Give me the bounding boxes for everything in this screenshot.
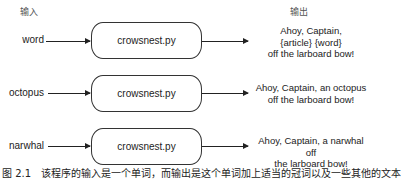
program-box-1: crowsnest.py — [91, 22, 202, 59]
output-line: Ahoy, Captain, a narwhal off — [252, 135, 370, 158]
output-text-2: Ahoy, Captain, an octopus off the larboa… — [252, 82, 370, 105]
output-header: 输出 — [290, 5, 308, 18]
input-narwhal: narwhal — [0, 140, 44, 151]
program-box-2: crowsnest.py — [91, 75, 202, 112]
program-name: crowsnest.py — [117, 88, 175, 99]
input-octopus: octopus — [0, 87, 44, 98]
output-line: off the larboard bow! — [252, 94, 370, 106]
output-arrow-1 — [202, 41, 248, 42]
program-name: crowsnest.py — [117, 141, 175, 152]
program-box-3: crowsnest.py — [91, 128, 202, 165]
input-arrow-3 — [48, 146, 90, 147]
output-arrow-2 — [202, 93, 248, 94]
output-line: {article} {word} — [252, 37, 370, 49]
input-word: word — [0, 34, 44, 45]
input-arrow-2 — [48, 93, 90, 94]
figure-caption: 图 2.1 该程序的输入是一个单词，而输出是这个单词加上适当的冠词以及一些其他的… — [2, 165, 401, 180]
output-line: Ahoy, Captain, — [252, 25, 370, 37]
output-text-1: Ahoy, Captain, {article} {word} off the … — [252, 25, 370, 60]
input-arrow-1 — [46, 41, 90, 42]
input-header: 输入 — [20, 5, 38, 18]
output-line: Ahoy, Captain, an octopus — [252, 82, 370, 94]
program-name: crowsnest.py — [117, 35, 175, 46]
output-arrow-3 — [202, 146, 248, 147]
output-line: off the larboard bow! — [252, 48, 370, 60]
